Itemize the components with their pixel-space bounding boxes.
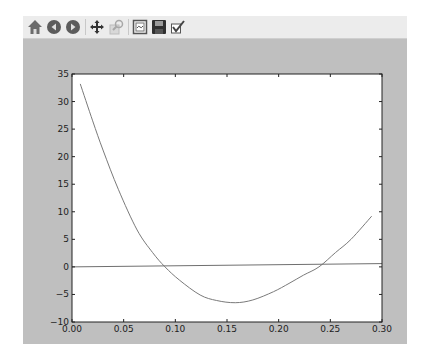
- y-tick-label: 0: [63, 262, 69, 272]
- y-tick-label: −5: [56, 289, 69, 299]
- y-tick-label: 20: [58, 152, 70, 162]
- y-tick-label: 5: [63, 234, 69, 244]
- x-tick-label: 0.20: [269, 324, 289, 334]
- x-tick-label: 0.25: [320, 324, 340, 334]
- y-tick-label: 10: [58, 207, 70, 217]
- x-tick-label: 0.30: [372, 324, 392, 334]
- y-tick-label: 25: [58, 124, 69, 134]
- x-tick-label: 0.10: [165, 324, 185, 334]
- x-tick-label: 0.15: [217, 324, 237, 334]
- figure-window: 0.000.050.100.150.200.250.30−10−50510152…: [23, 16, 407, 344]
- y-tick-label: 35: [58, 69, 69, 79]
- x-tick-label: 0.05: [114, 324, 134, 334]
- y-tick-label: 30: [58, 97, 70, 107]
- y-tick-label: −10: [50, 317, 69, 327]
- y-tick-label: 15: [58, 179, 69, 189]
- axes-background: [72, 74, 382, 322]
- figure-canvas: 0.000.050.100.150.200.250.30−10−50510152…: [23, 16, 407, 344]
